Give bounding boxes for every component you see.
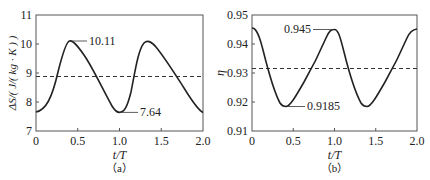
annotation-min-a: 7.64: [140, 105, 161, 119]
y-tick-label: 0.94: [227, 37, 248, 51]
y-tick-label: 11: [20, 8, 32, 22]
x-tick-label: 1.5: [154, 134, 169, 148]
x-tick-label: 0: [249, 134, 255, 148]
y-ticks-b: [252, 44, 376, 131]
x-tick-label: 0: [33, 134, 39, 148]
x-tick-label: 1.5: [368, 134, 383, 148]
y-tick-label: 0.93: [227, 66, 248, 80]
y-tick-label: 7: [26, 124, 32, 138]
x-tick-label: 2.0: [410, 134, 425, 148]
panel-b: 0.95 0.94 0.93 0.92 0.91 0 0.5 1.0 1.5 2…: [213, 8, 425, 174]
panel-caption: （b）: [321, 162, 349, 174]
annotation-max-a: 10.11: [89, 34, 116, 48]
efficiency-curve: [252, 28, 417, 107]
x-axis-label: t/T: [113, 148, 128, 162]
y-tick-label: 0.92: [227, 95, 248, 109]
x-tick-label: 0.5: [286, 134, 301, 148]
x-tick-label: 2.0: [196, 134, 211, 148]
y-tick-label: 0.95: [227, 8, 248, 22]
y-axis-label: η: [213, 70, 227, 76]
x-tick-label: 0.5: [70, 134, 85, 148]
y-axis-label: ΔS/( J/( kg · K ) ): [6, 35, 19, 111]
axes-frame-b: [252, 15, 417, 131]
y-tick-label: 8: [26, 95, 32, 109]
panel-a: 11 10 9 8 7 0 0.5 1.0 1.5 2.0 t/T （a） ΔS…: [6, 8, 211, 174]
y-tick-label: 0.91: [227, 124, 248, 138]
x-tick-label: 1.0: [327, 134, 342, 148]
figure: 11 10 9 8 7 0 0.5 1.0 1.5 2.0 t/T （a） ΔS…: [0, 0, 430, 180]
x-tick-label: 1.0: [112, 134, 127, 148]
y-tick-label: 10: [20, 37, 32, 51]
annotation-max-b: 0.945: [284, 22, 311, 36]
y-tick-label: 9: [26, 66, 32, 80]
annotation-min-b: 0.9185: [307, 99, 340, 113]
axes-frame-a: [36, 15, 203, 131]
panel-caption: （a）: [106, 162, 133, 174]
x-axis-label: t/T: [328, 148, 343, 162]
